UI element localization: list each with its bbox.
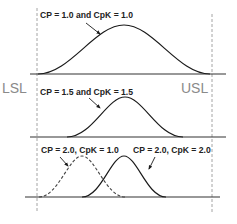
arrow-icon [149,157,155,169]
arrow-icon [60,157,68,166]
process-capability-diagram: LSL USL CP = 1.0 and CpK = 1.0 CP = 1.5 … [0,0,237,224]
curve-cp2-cpk1-dashed [39,156,125,197]
curve-cp2-cpk2 [82,156,166,197]
lsl-label: LSL [2,80,27,96]
label-cp15-cpk15: CP = 1.5 and CpK = 1.5 [40,87,133,97]
label-cp2-cpk2: CP = 2.0, CpK = 2.0 [133,145,211,155]
arrow-icon [89,98,100,108]
usl-label: USL [181,80,208,96]
curve-cp15-cpk15 [67,97,183,137]
label-cp2-cpk1: CP = 2.0, CpK = 1.0 [41,145,119,155]
curve-cp1-cpk1 [38,25,210,74]
label-cp1-cpk1: CP = 1.0 and CpK = 1.0 [40,10,133,20]
arrow-icon [86,23,100,34]
